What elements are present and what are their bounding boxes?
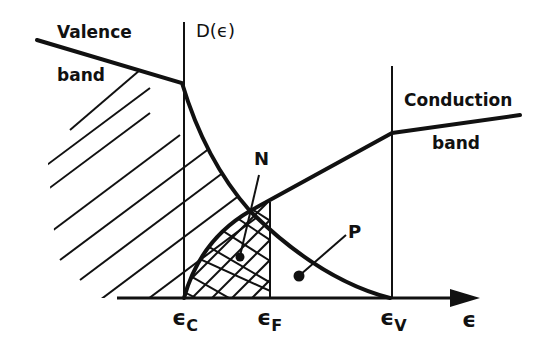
diagram-graphics [0,0,544,359]
density-of-states-diagram: Valence band D(ϵ) Conduction band N P ϵC… [0,0,544,359]
cross-hatch [150,170,300,310]
p-dot [294,271,305,282]
ec-tick-label: ϵC [172,307,198,329]
n-dot [236,253,245,262]
x-axis-label: ϵ [462,309,476,331]
x-axis-arrow-icon [450,289,480,307]
y-axis-label: D(ϵ) [196,22,235,40]
p-label: P [348,223,361,241]
valence-label-line2: band [57,67,105,84]
conduction-label-line1: Conduction [404,92,512,109]
ev-tick-label: ϵV [380,307,407,329]
valence-label-line1: Valence [57,24,132,41]
ef-tick-label: ϵF [257,307,282,329]
n-label: N [254,150,269,168]
conduction-label-line2: band [432,135,480,152]
